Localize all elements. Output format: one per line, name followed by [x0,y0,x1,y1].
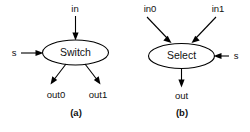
port-label-out0: out0 [47,89,66,100]
panel-switch: in s Switch out0 out1 (a) [12,3,109,118]
port-label-out1: out1 [89,89,108,100]
figure-svg: in s Switch out0 out1 (a) [0,0,250,132]
arrow-head-in1 [192,36,200,43]
port-label-s-select: s [234,50,239,61]
caption-panel-a: (a) [70,107,82,118]
node-label-switch: Switch [60,46,91,58]
figure-container: in s Switch out0 out1 (a) [0,0,250,132]
wire-out0 [55,64,67,79]
port-label-in1: in1 [212,3,225,14]
caption-panel-b: (b) [176,107,188,118]
arrow-head-in0 [163,36,171,43]
arrow-head-in [72,33,78,41]
arrow-head-out [178,80,184,88]
port-label-in: in [71,3,78,14]
port-label-s-switch: s [12,47,17,58]
port-label-out: out [175,90,189,101]
wire-in1 [196,17,216,38]
port-label-in0: in0 [144,3,157,14]
arrow-head-s-select [214,53,222,59]
wire-out1 [85,64,97,79]
wire-in0 [147,17,167,38]
node-label-select: Select [167,49,196,61]
panel-select: in0 in1 Select s out (b) [144,3,239,118]
